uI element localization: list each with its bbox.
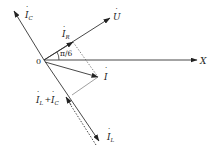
angle-label: π/6	[60, 49, 72, 58]
i-dot: ·	[105, 64, 107, 72]
phasor-i-l-plus-i-c-dotted	[70, 104, 96, 145]
construction-dotted-line	[73, 42, 98, 77]
i-l-plus-i-c-sub2: C	[55, 100, 60, 106]
i-r-sub: R	[65, 34, 70, 40]
phasor-diagram: 0 X π/6 · U · I R · I C · I · I L + · I …	[0, 0, 217, 162]
angle-arc	[57, 52, 59, 60]
u-label: U	[113, 12, 121, 22]
i-l-plus-i-c-sub1: L	[39, 100, 44, 106]
x-axis-label: X	[199, 56, 207, 66]
i-l-sub: L	[110, 137, 115, 143]
i-c-sub: C	[29, 15, 34, 21]
i-label: I	[103, 72, 108, 82]
construction-thin-line	[72, 77, 98, 95]
origin-label: 0	[36, 57, 41, 66]
phasor-i	[45, 62, 98, 77]
